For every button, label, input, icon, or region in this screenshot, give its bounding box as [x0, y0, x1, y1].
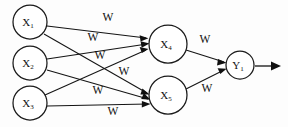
- output-arrow: [255, 62, 281, 71]
- node-label-x1-sub: 1: [30, 22, 34, 30]
- weight-label-w4: W: [119, 65, 130, 77]
- arrowhead-x1-x5: [140, 88, 149, 94]
- node-label-y1-sub: 1: [240, 65, 244, 73]
- arrowhead-x5-y1: [218, 68, 227, 74]
- node-label-x5-sub: 5: [168, 95, 172, 103]
- weight-label-w5: W: [93, 84, 104, 96]
- node-label-x2-sub: 2: [30, 63, 34, 71]
- node-x3[interactable]: X3: [13, 86, 47, 120]
- edge-x4-y1: [186, 50, 227, 65]
- node-x4[interactable]: X4: [149, 25, 187, 63]
- node-x5[interactable]: X5: [149, 76, 187, 114]
- edge-x3-x5: [47, 101, 151, 108]
- arrowhead-x4-y1: [217, 59, 227, 65]
- weight-label-w1: W: [103, 11, 114, 23]
- arrowhead-x2-x4: [141, 41, 150, 47]
- arrowhead-x1-x4: [140, 35, 149, 41]
- node-label-x1-text: X: [22, 16, 30, 28]
- arrowhead-x3-x5: [142, 101, 151, 108]
- weight-label-w2: W: [88, 31, 99, 43]
- node-label-x2-text: X: [22, 57, 30, 69]
- weight-label-w3: W: [95, 49, 106, 61]
- node-label-x5-text: X: [160, 89, 168, 101]
- neural-network-diagram: X1 X2 X3 X4: [0, 0, 288, 127]
- weight-label-w8: W: [202, 82, 213, 94]
- node-label-y1-text: Y: [232, 59, 240, 71]
- edge-line-x3-x5: [47, 104, 148, 106]
- weight-label-w6: W: [108, 105, 119, 117]
- node-x1[interactable]: X1: [13, 5, 47, 39]
- node-label-x4-text: X: [160, 38, 168, 50]
- node-x2[interactable]: X2: [13, 46, 47, 80]
- node-label-x3-sub: 3: [30, 103, 34, 111]
- node-y1[interactable]: Y1: [226, 51, 254, 79]
- node-label-x4-sub: 4: [168, 44, 172, 52]
- network-canvas: X1 X2 X3 X4: [0, 0, 288, 127]
- weight-label-w7: W: [200, 33, 211, 45]
- node-label-x3-text: X: [22, 97, 30, 109]
- output-arrowhead: [271, 62, 281, 71]
